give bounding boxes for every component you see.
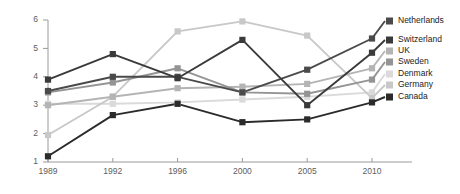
data-point-marker bbox=[175, 65, 181, 71]
data-point-marker bbox=[239, 119, 245, 125]
legend-label-germany: Germany bbox=[398, 79, 434, 89]
data-point-marker bbox=[239, 18, 245, 24]
data-point-marker bbox=[304, 33, 310, 39]
legend-swatch-canada bbox=[386, 94, 393, 101]
leader-line-switzerland bbox=[372, 40, 385, 53]
data-point-marker bbox=[304, 102, 310, 108]
y-tick-label: 4 bbox=[33, 71, 38, 81]
legend-swatch-uk bbox=[386, 48, 393, 55]
data-point-marker bbox=[110, 51, 116, 57]
legend: NetherlandsSwitzerlandUKSwedenDenmarkGer… bbox=[386, 15, 444, 101]
legend-label-switzerland: Switzerland bbox=[398, 34, 442, 44]
data-point-marker bbox=[239, 96, 245, 102]
legend-swatch-germany bbox=[386, 82, 393, 89]
data-point-marker bbox=[45, 153, 51, 159]
legend-label-canada: Canada bbox=[398, 91, 428, 101]
series-line-canada bbox=[48, 102, 372, 156]
series-line-germany bbox=[48, 21, 372, 135]
data-point-marker bbox=[239, 84, 245, 90]
legend-label-uk: UK bbox=[398, 45, 410, 55]
series-line-uk bbox=[48, 68, 372, 105]
data-point-marker bbox=[304, 91, 310, 97]
legend-label-denmark: Denmark bbox=[398, 68, 433, 78]
data-point-marker bbox=[304, 116, 310, 122]
data-point-marker bbox=[45, 102, 51, 108]
data-point-marker bbox=[175, 28, 181, 34]
x-tick-label: 2005 bbox=[298, 166, 317, 176]
legend-swatch-switzerland bbox=[386, 37, 393, 44]
x-tick-label: 2000 bbox=[233, 166, 252, 176]
y-tick-label: 2 bbox=[33, 128, 38, 138]
series-layer bbox=[45, 18, 375, 159]
data-point-marker bbox=[110, 101, 116, 107]
data-point-marker bbox=[239, 37, 245, 43]
data-point-marker bbox=[175, 75, 181, 81]
data-point-marker bbox=[239, 89, 245, 95]
legend-label-netherlands: Netherlands bbox=[398, 15, 444, 25]
data-point-marker bbox=[110, 79, 116, 85]
data-point-marker bbox=[304, 81, 310, 87]
line-chart: 654321 198919921996200020052010 Netherla… bbox=[0, 0, 460, 194]
y-tick-label: 5 bbox=[33, 43, 38, 53]
data-point-marker bbox=[45, 88, 51, 94]
y-tick-label: 6 bbox=[33, 14, 38, 24]
x-tick-label: 1989 bbox=[39, 166, 58, 176]
legend-label-sweden: Sweden bbox=[398, 56, 429, 66]
data-point-marker bbox=[110, 74, 116, 80]
y-tick-label: 3 bbox=[33, 99, 38, 109]
data-point-marker bbox=[45, 132, 51, 138]
data-point-marker bbox=[45, 77, 51, 83]
x-tick-label: 1992 bbox=[103, 166, 122, 176]
x-tick-label: 1996 bbox=[168, 166, 187, 176]
legend-leader-lines bbox=[372, 21, 385, 102]
x-tick-label: 2010 bbox=[363, 166, 382, 176]
legend-swatch-sweden bbox=[386, 59, 393, 66]
leader-line-netherlands bbox=[372, 21, 385, 39]
data-point-marker bbox=[304, 67, 310, 73]
data-point-marker bbox=[110, 112, 116, 118]
y-tick-label: 1 bbox=[33, 156, 38, 166]
data-point-marker bbox=[175, 85, 181, 91]
legend-swatch-netherlands bbox=[386, 18, 393, 25]
data-point-marker bbox=[175, 101, 181, 107]
legend-swatch-denmark bbox=[386, 71, 393, 78]
chart-container: 654321 198919921996200020052010 Netherla… bbox=[0, 0, 460, 194]
x-axis: 198919921996200020052010 bbox=[39, 158, 412, 176]
data-point-marker bbox=[110, 94, 116, 100]
